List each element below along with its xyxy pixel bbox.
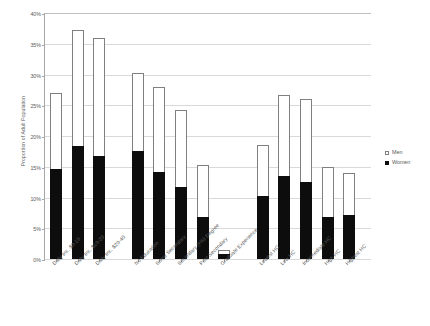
y-axis-tick-label: 20% (30, 134, 41, 140)
y-axis-tick-label: 0% (33, 257, 41, 263)
bar-group (278, 13, 290, 259)
bars-layer (45, 13, 371, 259)
legend-label: Women (392, 160, 410, 165)
bar-chart: Proportion of Adult Population 0%5%10%15… (0, 0, 430, 326)
bar-group (153, 13, 165, 259)
bar-women (50, 169, 62, 259)
y-axis-tick-label: 25% (30, 103, 41, 109)
bar-group (218, 13, 230, 259)
legend-item[interactable]: Men (385, 150, 410, 155)
bar-group (72, 13, 84, 259)
y-axis-tick-label: 30% (30, 73, 41, 79)
y-axis-tick-label: 15% (30, 165, 41, 171)
y-axis-tick-label: 40% (30, 11, 41, 17)
legend-swatch-filled-icon (385, 161, 389, 165)
bar-group (343, 13, 355, 259)
bar-group (50, 13, 62, 259)
y-axis-tick-label: 5% (33, 226, 41, 232)
legend-item[interactable]: Women (385, 160, 410, 165)
plot-area: 0%5%10%15%20%25%30%35%40% (44, 13, 371, 260)
chart-legend: MenWomen (385, 150, 410, 171)
bar-women (175, 187, 187, 259)
bar-women (257, 196, 269, 259)
y-axis-title: Proportion of Adult Population (20, 61, 26, 201)
bar-group (132, 13, 144, 259)
bar-group (300, 13, 312, 259)
bar-group (197, 13, 209, 259)
y-axis-tick-mark (42, 260, 45, 261)
y-axis-tick-label: 35% (30, 42, 41, 48)
x-axis-labels: Daily Inc. $0-10Daily Inc. $10-20Daily I… (44, 262, 430, 326)
legend-swatch-hollow-icon (385, 151, 389, 155)
legend-label: Men (392, 150, 403, 155)
bar-women (300, 182, 312, 259)
bar-women (132, 151, 144, 259)
bar-group (322, 13, 334, 259)
bar-group (257, 13, 269, 259)
bar-group (93, 13, 105, 259)
bar-group (175, 13, 187, 259)
y-axis-tick-label: 10% (30, 196, 41, 202)
